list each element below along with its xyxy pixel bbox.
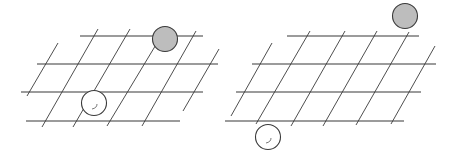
gray-stone-icon bbox=[393, 4, 418, 29]
left-board-panel bbox=[21, 27, 219, 128]
grid-diagonal-line bbox=[356, 32, 409, 125]
diagram-canvas bbox=[0, 0, 459, 158]
grid-diagonal-line bbox=[183, 49, 219, 111]
grid-diagonal-line bbox=[391, 46, 435, 124]
grid-diagonal-line bbox=[27, 43, 58, 96]
grid-diagonal-line bbox=[231, 43, 272, 116]
white-stone-icon bbox=[82, 91, 107, 116]
grid-diagonal-line bbox=[256, 31, 310, 124]
go-board-diagram bbox=[0, 0, 459, 158]
white-stone-icon bbox=[256, 125, 281, 150]
right-board-panel bbox=[225, 4, 436, 150]
grid-diagonal-line bbox=[291, 31, 345, 126]
gray-stone-icon bbox=[153, 27, 178, 52]
grid-diagonal-line bbox=[323, 31, 377, 126]
